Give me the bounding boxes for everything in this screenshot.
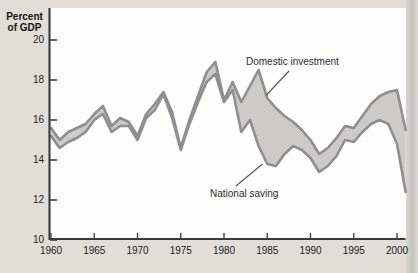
x-tick-label-1970: 1970 (120, 245, 156, 257)
national-saving-label: National saving (210, 188, 278, 199)
y-axis-title-line2: of GDP (1, 22, 48, 33)
y-tick-label-18: 18 (14, 74, 44, 86)
x-tick-label-1980: 1980 (206, 245, 242, 257)
y-tick-label-14: 14 (14, 154, 44, 166)
chart-canvas (0, 0, 418, 273)
y-axis-title-line1: Percent (1, 11, 48, 22)
x-tick-label-1960: 1960 (33, 245, 69, 257)
domestic-investment-label: Domestic investment (246, 56, 339, 67)
domestic-investment-pointer-line (267, 71, 290, 95)
x-tick-label-1990: 1990 (293, 245, 329, 257)
axes (48, 8, 405, 240)
y-tick-label-20: 20 (14, 34, 44, 46)
y-tick-label-12: 12 (14, 194, 44, 206)
x-tick-label-1995: 1995 (336, 245, 372, 257)
x-tick-label-2000: 2000 (379, 245, 415, 257)
national-saving-pointer-line (236, 164, 263, 186)
x-tick-label-1985: 1985 (249, 245, 285, 257)
y-axis-title: Percent of GDP (1, 11, 48, 33)
x-tick-label-1965: 1965 (76, 245, 112, 257)
figure-national-saving-investment: Percent of GDP Domestic investment Natio… (0, 0, 418, 273)
x-tick-label-1975: 1975 (163, 245, 199, 257)
y-tick-label-16: 16 (14, 114, 44, 126)
